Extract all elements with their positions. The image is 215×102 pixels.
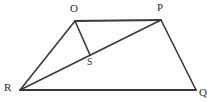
vertex-label-O: O bbox=[70, 3, 78, 14]
vertex-label-R: R bbox=[4, 82, 11, 93]
segment-PQ bbox=[161, 20, 196, 90]
segment-group bbox=[20, 20, 196, 90]
geometry-canvas bbox=[0, 0, 215, 102]
vertex-label-Q: Q bbox=[199, 87, 207, 98]
vertex-label-P: P bbox=[157, 2, 163, 13]
segment-OP bbox=[75, 20, 161, 21]
vertex-label-S: S bbox=[87, 58, 92, 68]
segment-OS-altitude bbox=[75, 21, 90, 55]
geometry-figure: O P Q R S bbox=[0, 0, 215, 102]
segment-RO bbox=[20, 21, 75, 90]
